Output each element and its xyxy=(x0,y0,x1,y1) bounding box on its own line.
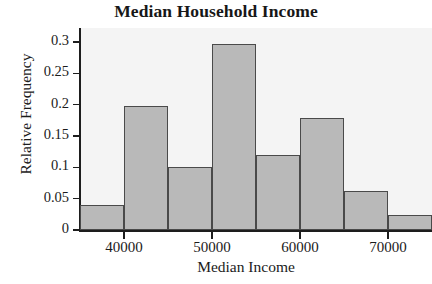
histogram-chart: Median Household Income Relative Frequen… xyxy=(0,0,432,284)
chart-title: Median Household Income xyxy=(0,1,432,22)
x-axis-tick xyxy=(299,232,301,239)
y-axis-tick xyxy=(73,41,80,43)
x-axis-tick-label: 50000 xyxy=(167,239,257,256)
histogram-bar xyxy=(344,191,388,230)
y-axis-tick-label: 0.25 xyxy=(9,63,69,80)
y-axis-tick xyxy=(73,104,80,106)
histogram-bar xyxy=(80,205,124,230)
y-axis-tick xyxy=(73,167,80,169)
y-axis-line xyxy=(79,28,81,231)
y-axis-tick-label: 0.2 xyxy=(9,95,69,112)
y-axis-tick xyxy=(73,229,80,231)
y-axis-tick-label: 0 xyxy=(9,220,69,237)
y-axis-tick xyxy=(73,73,80,75)
histogram-bar xyxy=(124,106,168,230)
x-axis-tick-label: 60000 xyxy=(255,239,345,256)
histogram-bar xyxy=(168,167,212,230)
x-axis-tick-label: 40000 xyxy=(79,239,169,256)
y-axis-tick-label: 0.15 xyxy=(9,126,69,143)
x-axis-tick xyxy=(211,232,213,239)
x-axis-line xyxy=(79,230,432,232)
x-axis-title: Median Income xyxy=(60,258,432,276)
x-axis-tick xyxy=(123,232,125,239)
y-axis-tick xyxy=(73,198,80,200)
histogram-bar xyxy=(388,215,432,230)
x-axis-tick-label: 70000 xyxy=(343,239,432,256)
y-axis-tick-label: 0.3 xyxy=(9,32,69,49)
x-axis-tick xyxy=(387,232,389,239)
y-axis-tick-label: 0.05 xyxy=(9,189,69,206)
histogram-bar xyxy=(212,44,256,230)
y-axis-tick-label: 0.1 xyxy=(9,157,69,174)
histogram-bar xyxy=(300,118,344,230)
y-axis-tick xyxy=(73,135,80,137)
histogram-bar xyxy=(256,155,300,230)
